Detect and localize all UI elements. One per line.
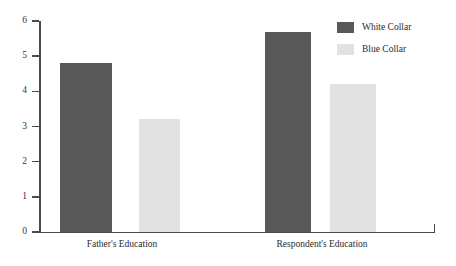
legend-label: White Collar [362, 23, 411, 33]
y-axis-tick-mark: 5 [32, 55, 39, 56]
y-axis-tick-label: 0 [22, 227, 27, 237]
chart-legend: White CollarBlue Collar [337, 19, 411, 63]
y-axis-tick-label: 1 [22, 192, 27, 202]
y-axis-tick-label: 5 [22, 51, 27, 61]
bar-white-collar-0 [60, 63, 112, 232]
bar-white-collar-1 [265, 32, 311, 232]
y-axis-tick-label: 3 [22, 122, 27, 132]
legend-label: Blue Collar [362, 45, 406, 55]
y-axis-tick-mark: 4 [32, 91, 39, 92]
y-axis-tick-label: 4 [22, 86, 27, 96]
legend-item-1: Blue Collar [337, 41, 411, 58]
y-axis-tick-label: 2 [22, 157, 27, 167]
y-axis-tick-mark: 0 [32, 231, 39, 232]
bar-blue-collar-1 [330, 84, 376, 232]
legend-swatch-icon [337, 22, 354, 33]
y-axis-tick-mark: 1 [32, 196, 39, 197]
y-axis-tick-mark: 2 [32, 161, 39, 162]
legend-swatch-icon [337, 44, 354, 55]
category-label-0: Father's Education [87, 240, 158, 250]
category-label-1: Respondent's Education [276, 240, 367, 250]
y-axis-tick-mark: 6 [32, 20, 39, 21]
y-axis-tick-label: 6 [22, 16, 27, 26]
y-axis-tick-mark: 3 [32, 126, 39, 127]
bar-blue-collar-0 [139, 119, 180, 232]
legend-item-0: White Collar [337, 19, 411, 36]
bar-chart: 0123456 Father's EducationRespondent's E… [0, 0, 456, 266]
